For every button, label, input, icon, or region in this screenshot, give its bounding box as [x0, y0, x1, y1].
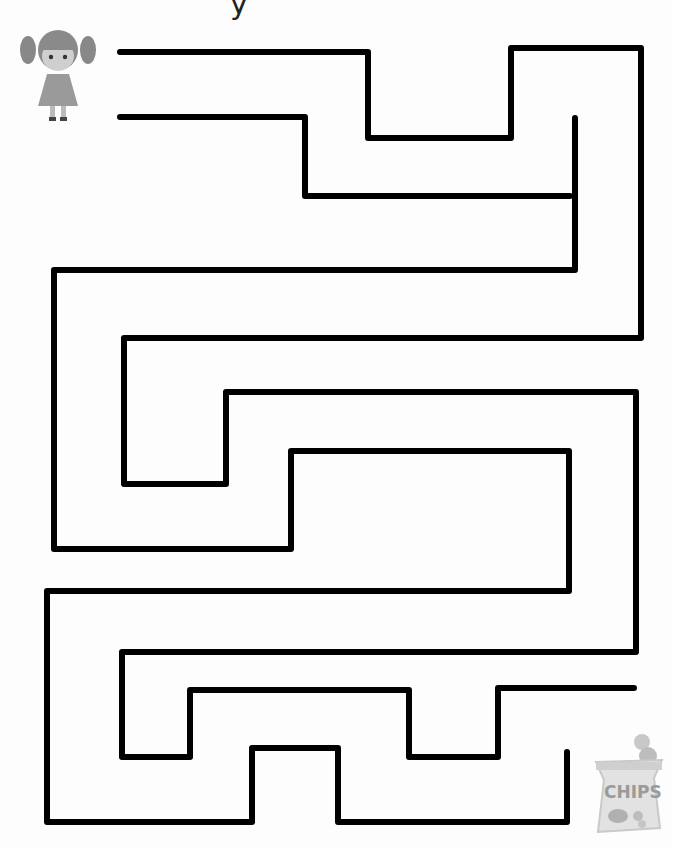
maze-wall: [120, 117, 570, 196]
maze: [0, 0, 673, 847]
chips-label: CHIPS: [604, 782, 662, 802]
chips-bag-icon: CHIPS: [590, 732, 670, 840]
maze-wall: [120, 48, 641, 757]
girl-icon: [18, 22, 98, 124]
